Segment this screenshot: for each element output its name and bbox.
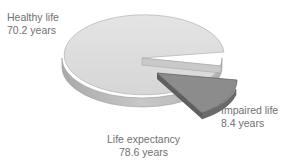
healthy-life-label: Healthy life 70.2 years [7, 11, 59, 37]
life-expectancy-value: 78.6 years [50, 146, 237, 159]
life-expectancy-label: Life expectancy 78.6 years [50, 133, 237, 159]
healthy-life-name: Healthy life [7, 11, 59, 24]
life-expectancy-name: Life expectancy [50, 133, 237, 146]
healthy-life-value: 70.2 years [7, 24, 59, 37]
impaired-life-name: Impaired life [221, 104, 278, 117]
impaired-life-label: Impaired life 8.4 years [221, 104, 278, 130]
impaired-life-value: 8.4 years [221, 117, 278, 130]
